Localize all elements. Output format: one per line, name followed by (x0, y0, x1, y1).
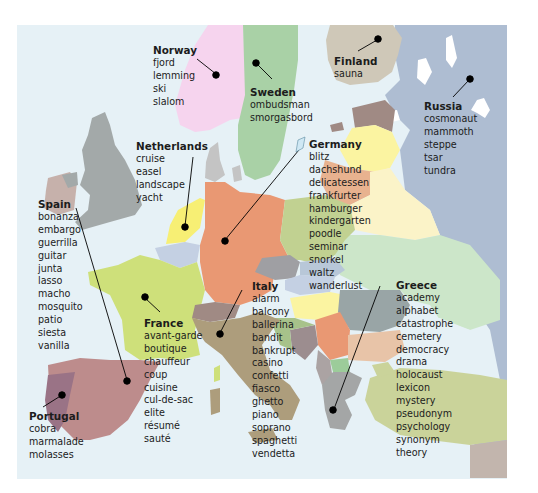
loanword: catastrophe (396, 318, 453, 331)
label-sweden: Sweden ombudsman smorgasbord (250, 86, 313, 125)
loanword: cobra (29, 423, 84, 436)
country-name: Spain (38, 198, 83, 211)
loanword: hamburger (309, 203, 371, 216)
country-name: Portugal (29, 410, 84, 423)
loanword: elite (144, 407, 202, 420)
loanword: vendetta (252, 448, 297, 461)
loanword: academy (396, 292, 453, 305)
loanword: piano (252, 409, 297, 422)
loanword: coup (144, 369, 202, 382)
loanword: boutique (144, 343, 202, 356)
loanword: cul-de-sac (144, 394, 202, 407)
loanword: democracy (396, 344, 453, 357)
label-russia: Russia cosmonaut mammoth steppe tsar tun… (424, 100, 477, 177)
label-norway: Norway fjord lemming ski slalom (153, 44, 197, 109)
label-greece: Greece academy alphabet catastrophe ceme… (396, 279, 453, 460)
loanword: snorkel (309, 254, 371, 267)
label-germany: Germany blitz dachshund delicatessen fra… (309, 138, 371, 293)
loanword: poodle (309, 228, 371, 241)
country-name: Sweden (250, 86, 313, 99)
country-name: Russia (424, 100, 477, 113)
loanword: drama (396, 356, 453, 369)
loanword: patio (38, 314, 83, 327)
country-name: Netherlands (136, 140, 208, 153)
loanword: cosmonaut (424, 113, 477, 126)
loanword: steppe (424, 139, 477, 152)
loanword: psychology (396, 421, 453, 434)
loanword: fiasco (252, 383, 297, 396)
loanword: sauna (334, 68, 377, 81)
country-name: Finland (334, 55, 377, 68)
loanword: embargo (38, 224, 83, 237)
loanword: casino (252, 357, 297, 370)
loanword: junta (38, 263, 83, 276)
loanword: tundra (424, 165, 477, 178)
loanword: macho (38, 288, 83, 301)
country-name: Norway (153, 44, 197, 57)
country-name: Italy (252, 280, 297, 293)
country-name: Germany (309, 138, 371, 151)
loanword: landscape (136, 179, 208, 192)
loanword: ghetto (252, 396, 297, 409)
loanword: sauté (144, 433, 202, 446)
loanword: synonym (396, 434, 453, 447)
loanword: dachshund (309, 164, 371, 177)
loanword: bankrupt (252, 345, 297, 358)
loanword: delicatessen (309, 177, 371, 190)
loanword: mosquito (38, 301, 83, 314)
label-france: France avant-garde boutique chauffeur co… (144, 317, 202, 446)
loanword: seminar (309, 241, 371, 254)
loanword: guerrilla (38, 237, 83, 250)
loanword: cuisine (144, 382, 202, 395)
macedonia-region (330, 358, 350, 372)
loanword: soprano (252, 422, 297, 435)
loanword: ski (153, 83, 197, 96)
loanword: bandit (252, 332, 297, 345)
loanword: balcony (252, 306, 297, 319)
label-italy: Italy alarm balcony ballerina bandit ban… (252, 280, 297, 461)
loanword: waltz (309, 267, 371, 280)
label-netherlands: Netherlands cruise easel landscape yacht (136, 140, 208, 205)
loanword: kindergarten (309, 215, 371, 228)
loanword: yacht (136, 192, 208, 205)
sardinia-island (210, 388, 220, 415)
loanword: guitar (38, 250, 83, 263)
loanword: bonanza (38, 211, 83, 224)
loanword: easel (136, 166, 208, 179)
loanword: alarm (252, 293, 297, 306)
loanword: alphabet (396, 305, 453, 318)
loanword: cemetery (396, 331, 453, 344)
loanword: vanilla (38, 340, 83, 353)
loanword: frankfurter (309, 190, 371, 203)
loanword: résumé (144, 420, 202, 433)
loanword: cruise (136, 153, 208, 166)
label-spain: Spain bonanza embargo guerrilla guitar j… (38, 198, 83, 353)
loanword: spaghetti (252, 435, 297, 448)
label-finland: Finland sauna (334, 55, 377, 81)
loanword: siesta (38, 327, 83, 340)
loanword: lasso (38, 275, 83, 288)
loanword: mammoth (424, 126, 477, 139)
loanword: avant-garde (144, 330, 202, 343)
loanword: chauffeur (144, 356, 202, 369)
loanword: ballerina (252, 319, 297, 332)
loanword: fjord (153, 57, 197, 70)
loanword: slalom (153, 96, 197, 109)
loanword: pseudonym (396, 408, 453, 421)
loanword: ombudsman (250, 99, 313, 112)
loanword: molasses (29, 449, 84, 462)
loanword: theory (396, 447, 453, 460)
label-portugal: Portugal cobra marmalade molasses (29, 410, 84, 462)
loanword: lemming (153, 70, 197, 83)
country-name: Greece (396, 279, 453, 292)
loanword: wanderlust (309, 280, 371, 293)
loanword: blitz (309, 151, 371, 164)
loanword: smorgasbord (250, 112, 313, 125)
syria-region (470, 440, 507, 478)
country-name: France (144, 317, 202, 330)
loanword: confetti (252, 370, 297, 383)
loanword: marmalade (29, 436, 84, 449)
loanword: lexicon (396, 382, 453, 395)
loanword: tsar (424, 152, 477, 165)
loanword: holocaust (396, 369, 453, 382)
